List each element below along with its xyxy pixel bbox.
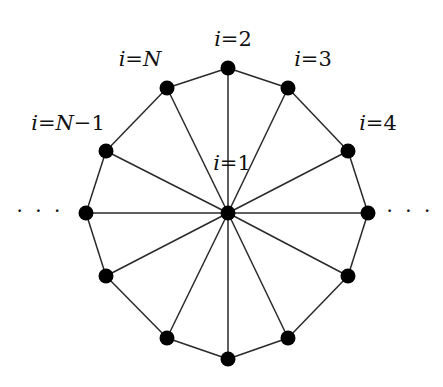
spoke-edge-1-r7 — [228, 213, 288, 338]
rim-edge-2-3 — [228, 68, 288, 88]
rim-edge-r10-r11 — [86, 213, 106, 276]
label-i-2: i=2 — [214, 27, 252, 51]
spoke-edge-1-r9 — [167, 213, 228, 338]
label-i-N-1: i=N−1 — [31, 111, 105, 135]
rim-edge-r8-r9 — [167, 338, 228, 359]
node-r6 — [341, 269, 356, 284]
label-i-4: i=4 — [359, 111, 397, 135]
spoke-edge-1-r10 — [106, 213, 228, 276]
rim-edge-3-4 — [288, 88, 348, 151]
node-r7 — [281, 331, 296, 346]
rim-edge-4-r5 — [348, 151, 368, 213]
rim-edge-r9-r10 — [106, 276, 167, 338]
node-r11 — [79, 206, 94, 221]
label-i-1: i=1 — [213, 151, 251, 175]
rim-edge-r11-N-1 — [86, 151, 106, 213]
node-r5 — [361, 206, 376, 221]
rim-edge-r6-r7 — [288, 276, 348, 338]
rim-edge-r5-r6 — [348, 213, 368, 276]
rim-edge-N-2 — [167, 68, 228, 88]
node-r9 — [160, 331, 175, 346]
label-i-3: i=3 — [294, 47, 332, 71]
wheel-graph-diagram: i=2i=Ni=3i=N−1i=4i=1 · · ·· · · — [0, 0, 443, 387]
node-2 — [221, 61, 236, 76]
node-3 — [281, 81, 296, 96]
node-r8 — [221, 352, 236, 367]
node-N-1 — [99, 144, 114, 159]
node-r10 — [99, 269, 114, 284]
node-N — [160, 81, 175, 96]
spoke-edge-1-N-1 — [106, 151, 228, 213]
rim-edge-r7-r8 — [228, 338, 288, 359]
label-i-N: i=N — [119, 47, 162, 71]
rim-edge-N-1-N — [106, 88, 167, 151]
spoke-edge-1-r6 — [228, 213, 348, 276]
ellipsis-left: · · · — [17, 199, 64, 223]
node-1 — [221, 206, 236, 221]
ellipsis-right: · · · — [387, 199, 434, 223]
node-4 — [341, 144, 356, 159]
